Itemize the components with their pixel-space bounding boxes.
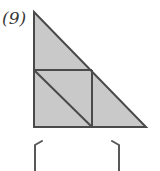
problem-number-label: (9) (2, 10, 26, 27)
figure-container: (9) (0, 0, 160, 171)
left-bracket (35, 141, 42, 171)
right-bracket (112, 141, 119, 171)
